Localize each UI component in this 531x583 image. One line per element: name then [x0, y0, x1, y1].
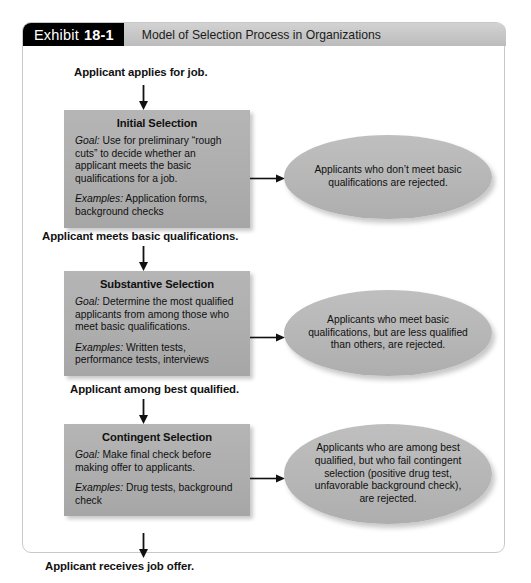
process-box-contingent-selection: Contingent Selection Goal: Make final ch…	[64, 424, 250, 516]
exhibit-title: Model of Selection Process in Organizati…	[124, 23, 506, 46]
stage-pass-label-initial: Applicant meets basic qualifications.	[42, 230, 238, 242]
examples-lead-contingent: Examples:	[75, 482, 123, 493]
examples-lead-substantive: Examples:	[75, 342, 123, 353]
outcome-ellipse-contingent: Applicants who are among best qualified,…	[284, 424, 492, 524]
outcome-ellipse-initial: Applicants who don’t meet basic qualific…	[284, 135, 492, 219]
arrow-contingent-to-outcome	[250, 474, 286, 483]
exit-label: Applicant receives job offer.	[45, 560, 194, 572]
arrow-entry-to-initial	[138, 85, 149, 111]
outcome-text-substantive: Applicants who meet basic qualifications…	[284, 314, 492, 352]
outcome-ellipse-substantive: Applicants who meet basic qualifications…	[284, 290, 492, 376]
box-title-contingent: Contingent Selection	[75, 431, 239, 443]
arrow-substantive-to-contingent	[138, 399, 149, 425]
box-examples-contingent: Examples: Drug tests, background check	[75, 482, 239, 507]
stage-pass-label-substantive: Applicant among best qualified.	[70, 383, 239, 395]
exhibit-number-badge: Exhibit18-1	[23, 23, 124, 46]
box-goal-initial: Goal: Use for preliminary “rough cuts” t…	[75, 135, 239, 185]
selection-process-flowchart: Applicant applies for job. Initial Selec…	[23, 46, 506, 553]
box-examples-initial: Examples: Application forms, background …	[75, 193, 239, 218]
process-box-initial-selection: Initial Selection Goal: Use for prelimin…	[64, 110, 250, 228]
goal-lead-contingent: Goal:	[75, 449, 100, 460]
entry-label: Applicant applies for job.	[74, 66, 207, 78]
box-title-initial: Initial Selection	[75, 117, 239, 129]
goal-lead-substantive: Goal:	[75, 296, 100, 307]
process-box-substantive-selection: Substantive Selection Goal: Determine th…	[64, 271, 250, 376]
arrow-contingent-to-exit	[138, 533, 149, 559]
goal-text-substantive: Determine the most qualified applicants …	[75, 296, 234, 332]
arrow-initial-to-outcome	[250, 174, 286, 183]
examples-lead-initial: Examples:	[75, 193, 123, 204]
exhibit-label: Exhibit	[34, 27, 79, 43]
outcome-text-contingent: Applicants who are among best qualified,…	[284, 442, 492, 506]
box-goal-contingent: Goal: Make final check before making off…	[75, 449, 239, 474]
exhibit-header: Exhibit18-1 Model of Selection Process i…	[23, 23, 506, 46]
box-title-substantive: Substantive Selection	[75, 278, 239, 290]
exhibit-number: 18-1	[84, 27, 114, 43]
arrow-substantive-to-outcome	[250, 333, 286, 342]
arrow-initial-to-substantive	[138, 246, 149, 272]
box-examples-substantive: Examples: Written tests, performance tes…	[75, 342, 239, 367]
goal-lead-initial: Goal:	[75, 135, 100, 146]
exhibit-frame: Exhibit18-1 Model of Selection Process i…	[22, 22, 505, 553]
outcome-text-initial: Applicants who don’t meet basic qualific…	[284, 164, 492, 190]
box-goal-substantive: Goal: Determine the most qualified appli…	[75, 296, 239, 334]
